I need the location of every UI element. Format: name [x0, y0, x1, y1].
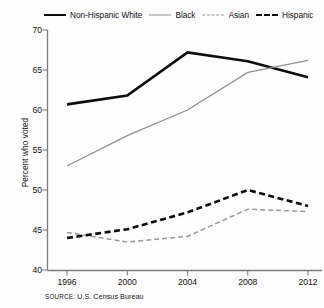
y-axis-ticks [43, 30, 48, 270]
source-prefix: SOURCE: [45, 293, 75, 300]
x-axis-tick-label: 2012 [288, 277, 324, 287]
y-axis-tick-label: 40 [20, 265, 42, 275]
y-axis-tick-label: 45 [20, 225, 42, 235]
series-line-asian [67, 209, 308, 242]
x-axis-tick-label: 2000 [107, 277, 147, 287]
x-axis-tick-labels: 19962000200420082012 [0, 277, 324, 291]
y-axis-tick-labels: 70656055504540 [16, 0, 42, 308]
x-axis-tick-label: 2004 [168, 277, 208, 287]
series-line-hispanic [67, 190, 308, 238]
source-text: U.S. Census Bureau [75, 292, 143, 301]
source-note: SOURCE: U.S. Census Bureau [45, 292, 144, 301]
series-line-non-hispanic-white [67, 52, 308, 104]
y-axis-tick-label: 65 [20, 65, 42, 75]
x-axis-tick-label: 1996 [47, 277, 87, 287]
y-axis-tick-label: 55 [20, 145, 42, 155]
plot-svg [0, 0, 324, 308]
x-axis-ticks [67, 271, 308, 276]
y-axis-tick-label: 60 [20, 105, 42, 115]
data-series-group [67, 52, 308, 242]
voter-turnout-line-chart: Non-Hispanic White Black Asian Hispanic [0, 0, 324, 308]
plot-area [0, 0, 324, 308]
x-axis-tick-label: 2008 [228, 277, 268, 287]
series-line-black [67, 60, 308, 166]
y-axis-tick-label: 50 [20, 185, 42, 195]
y-axis-tick-label: 70 [20, 25, 42, 35]
